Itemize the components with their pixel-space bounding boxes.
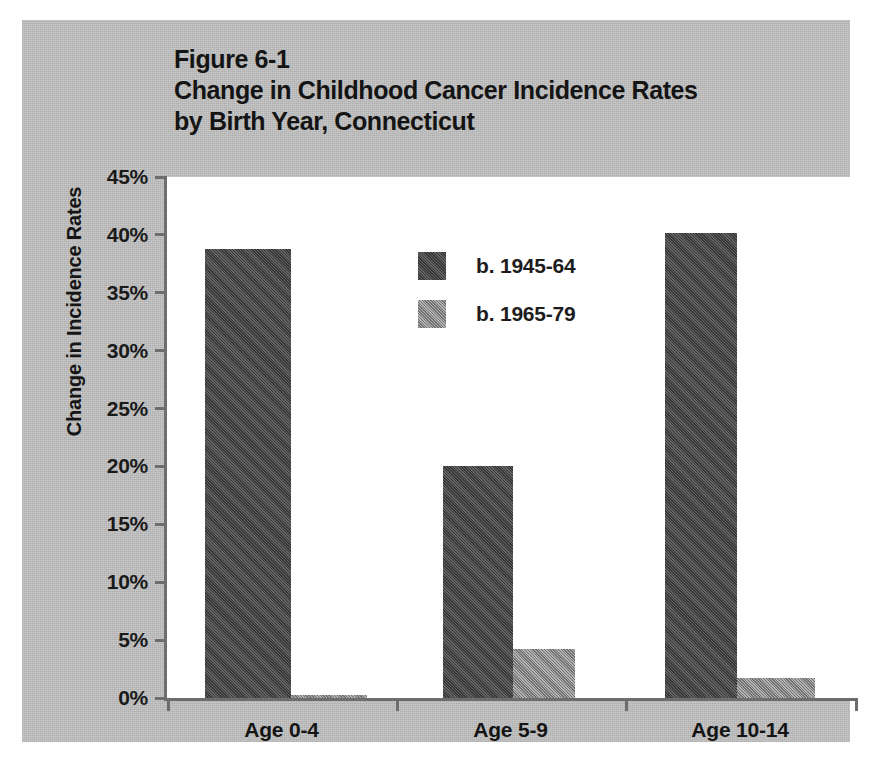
y-axis-tick-mark: [155, 465, 167, 468]
x-axis-category-label: Age 5-9: [473, 718, 547, 742]
y-axis-tick-mark: [155, 407, 167, 410]
figure-number: Figure 6-1: [174, 44, 834, 75]
bar-age-5-9-series-2: [513, 649, 575, 698]
y-axis-tick-label: 45%: [107, 165, 148, 189]
y-axis-tick-mark: [155, 349, 167, 352]
y-axis-tick-label: 25%: [107, 397, 148, 421]
y-axis-tick: 40%: [107, 223, 167, 247]
x-axis-tick-mark: [396, 698, 399, 711]
legend-item: b. 1945-64: [418, 242, 576, 290]
y-axis-tick-mark: [155, 697, 167, 700]
y-axis-tick-label: 40%: [107, 223, 148, 247]
legend-swatch-series-2: [418, 300, 446, 328]
x-axis-tick-mark: [167, 698, 170, 711]
y-axis-tick-mark: [155, 176, 167, 179]
legend-item: b. 1965-79: [418, 290, 576, 338]
y-axis-tick: 30%: [107, 339, 167, 363]
figure-title-line-1: Change in Childhood Cancer Incidence Rat…: [174, 75, 834, 106]
y-axis-title: Change in Incidence Rates: [63, 112, 86, 512]
y-axis-tick-label: 10%: [107, 570, 148, 594]
y-axis-tick-label: 20%: [107, 454, 148, 478]
y-axis-tick-mark: [155, 639, 167, 642]
legend-label-series-2: b. 1965-79: [476, 302, 576, 326]
y-axis-tick-mark: [155, 581, 167, 584]
y-axis-tick-mark: [155, 233, 167, 236]
y-axis-tick-label: 30%: [107, 339, 148, 363]
y-axis-tick-label: 0%: [118, 686, 148, 710]
y-axis-tick: 0%: [118, 686, 167, 710]
bar-age-0-4-series-1: [205, 249, 291, 698]
y-axis-tick-label: 15%: [107, 512, 148, 536]
y-axis-tick: 45%: [107, 165, 167, 189]
y-axis-tick: 35%: [107, 281, 167, 305]
y-axis-tick-mark: [155, 523, 167, 526]
y-axis-tick: 5%: [118, 628, 167, 652]
y-axis-tick-label: 5%: [118, 628, 148, 652]
plot-area: 0%5%10%15%20%25%30%35%40%45% Age 0-4Age …: [164, 177, 855, 701]
figure-title-line-2: by Birth Year, Connecticut: [174, 106, 834, 137]
legend-label-series-1: b. 1945-64: [476, 254, 576, 278]
bar-age-5-9-series-1: [443, 466, 513, 698]
chart-legend: b. 1945-64b. 1965-79: [418, 242, 576, 338]
x-axis-tick-mark: [855, 698, 858, 711]
bar-age-10-14-series-2: [737, 678, 815, 698]
y-axis-tick-label: 35%: [107, 281, 148, 305]
figure-title-block: Figure 6-1 Change in Childhood Cancer In…: [174, 44, 834, 137]
y-axis-tick: 15%: [107, 512, 167, 536]
bar-age-0-4-series-2: [291, 695, 367, 698]
bar-age-10-14-series-1: [665, 233, 737, 698]
figure-panel: Figure 6-1 Change in Childhood Cancer In…: [22, 20, 850, 742]
x-axis-category-label: Age 0-4: [244, 718, 318, 742]
y-axis-tick: 10%: [107, 570, 167, 594]
y-axis-tick: 20%: [107, 454, 167, 478]
legend-swatch-series-1: [418, 252, 446, 280]
y-axis-tick: 25%: [107, 397, 167, 421]
scanned-page: Figure 6-1 Change in Childhood Cancer In…: [0, 0, 870, 770]
y-axis-tick-mark: [155, 291, 167, 294]
x-axis-category-label: Age 10-14: [691, 718, 788, 742]
x-axis-tick-mark: [625, 698, 628, 711]
